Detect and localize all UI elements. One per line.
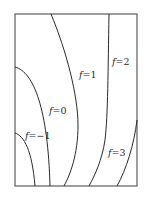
- contour-label-f-1: f=1: [78, 69, 97, 80]
- contour-line-f-2: [89, 14, 109, 186]
- contour-diagram: f=−1f=0f=1f=2f=3: [0, 0, 148, 198]
- contour-label-f-3: f=3: [107, 147, 126, 158]
- contour-label-f-neg1: f=−1: [24, 130, 51, 141]
- contour-label-f-2: f=2: [111, 56, 130, 67]
- contour-label-f-0: f=0: [48, 105, 67, 116]
- contour-group: [15, 14, 137, 186]
- contour-line-f-1: [51, 14, 78, 186]
